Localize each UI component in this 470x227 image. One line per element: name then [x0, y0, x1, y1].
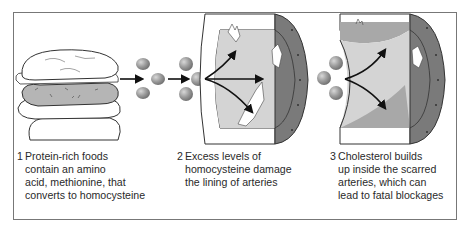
step-1-caption: 1 Protein-rich foods contain an amino ac…: [17, 150, 145, 202]
cholesterol-molecules-icon: [317, 56, 343, 100]
caption-line: converts to homocysteine: [17, 189, 145, 202]
caption-line: lead to fatal blockages: [330, 189, 443, 202]
caption-line: Cholesterol builds: [330, 150, 443, 163]
caption-line: arteries, which can: [330, 176, 443, 189]
caption-line: Excess levels of: [177, 150, 292, 163]
caption-line: contain an amino: [17, 163, 145, 176]
caption-line: acid, methionine, that: [17, 176, 145, 189]
step-3-caption: 3 Cholesterol builds up inside the scarr…: [330, 150, 443, 202]
blocked-artery-icon: [340, 14, 445, 144]
caption-line: the lining of arteries: [177, 176, 292, 189]
step-2-caption: 2 Excess levels of homocysteine damage t…: [177, 150, 292, 189]
caption-line: Protein-rich foods: [17, 150, 145, 163]
caption-line: homocysteine damage: [177, 163, 292, 176]
burger-icon: [16, 50, 120, 140]
caption-line: up inside the scarred: [330, 163, 443, 176]
damaged-artery-icon: [200, 14, 308, 144]
step-number: 3: [330, 150, 336, 163]
step-number: 2: [177, 150, 183, 163]
step-number: 1: [17, 150, 23, 163]
